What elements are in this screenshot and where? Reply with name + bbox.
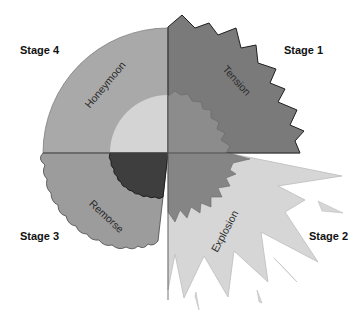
remorse-segment: Remorse: [40, 153, 168, 249]
explosion-shard: [318, 201, 343, 213]
stage-3-label: Stage 3: [20, 230, 59, 242]
tension-segment: Tension: [168, 15, 304, 153]
explosion-shard: [257, 290, 262, 303]
explosion-shard: [195, 292, 199, 310]
stage-2-label: Stage 2: [309, 230, 348, 242]
stage-1-label: Stage 1: [284, 44, 323, 56]
explosion-shard: [274, 258, 297, 282]
honeymoon-segment: Honeymoon: [43, 28, 168, 153]
stage-4-label: Stage 4: [20, 44, 59, 56]
